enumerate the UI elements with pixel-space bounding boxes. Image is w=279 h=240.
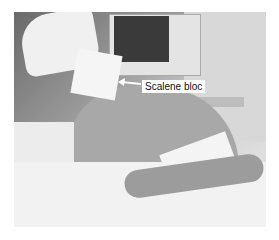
annotation-label: Scalene bloc: [142, 80, 205, 93]
clinical-photo: [14, 12, 266, 227]
monitor-screen: [114, 16, 169, 62]
arrow-icon: [118, 78, 142, 88]
face-drape: [70, 48, 122, 100]
